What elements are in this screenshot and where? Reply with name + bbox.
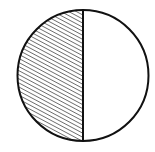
fraction-circle — [0, 0, 155, 152]
diagram-canvas — [0, 0, 155, 152]
unshaded-half — [83, 10, 149, 141]
